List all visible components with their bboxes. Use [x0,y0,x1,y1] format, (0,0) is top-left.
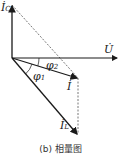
arc-phi2 [38,58,39,66]
label-il: İL [60,120,69,131]
label-u: U̇ [104,44,113,55]
label-phi2: φ2 [46,60,58,71]
caption: (b) 相量图 [0,142,121,155]
label-i: İ [67,81,71,92]
arc-phi1 [26,64,33,74]
label-ic: İC [1,2,11,13]
phasor-diagram-canvas [0,0,121,157]
dashed-diagonal [12,5,78,78]
label-phi1: φ1 [33,71,45,82]
